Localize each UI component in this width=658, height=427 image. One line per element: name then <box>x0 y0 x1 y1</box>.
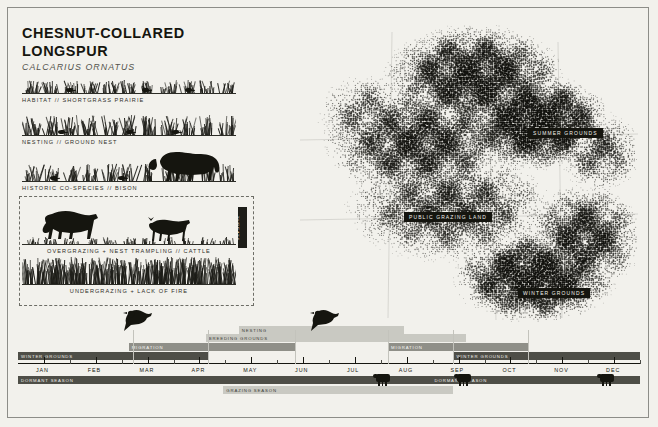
cattle-marker-icon <box>457 374 471 382</box>
month-label: OCT <box>502 367 516 373</box>
month-tick <box>303 357 304 364</box>
strip-caption: NESTING // GROUND NEST <box>22 139 236 145</box>
strip-nesting: NESTING // GROUND NEST <box>22 108 236 145</box>
month-half-tick <box>485 360 486 364</box>
month-label: JUL <box>347 367 359 373</box>
timeline-bar: GRAZING SEASON <box>223 386 453 394</box>
timeline-bar: WINTER GROUNDS <box>18 352 208 360</box>
timeline-bar: MIGRATION <box>388 343 528 351</box>
strip-undergrazing: UNDERGRAZING + LACK OF FIRE <box>22 255 236 294</box>
timeline-guide-line <box>453 330 454 364</box>
timeline-bar: MIGRATION <box>129 343 295 351</box>
timeline-guide-line <box>388 330 389 364</box>
month-label: MAY <box>243 367 257 373</box>
month-half-tick <box>433 360 434 364</box>
range-map: SUMMER GROUNDSPUBLIC GRAZING LANDWINTER … <box>300 22 638 322</box>
month-label: JAN <box>36 367 49 373</box>
month-half-tick <box>329 360 330 364</box>
month-tick <box>459 357 460 364</box>
month-half-tick <box>122 360 123 364</box>
strip-caption: HISTORIC CO-SPECIES // BISON <box>22 185 236 191</box>
month-half-tick <box>174 360 175 364</box>
timeline-guide-line <box>295 330 296 364</box>
map-label-summer-grounds: SUMMER GROUNDS <box>528 128 603 138</box>
month-half-tick <box>536 360 537 364</box>
page-title: CHESNUT-COLLARED LONGSPUR <box>22 24 256 60</box>
month-tick <box>148 357 149 364</box>
timeline-bar-label: BREEDING GROUNDS <box>206 336 268 341</box>
map-label-public-grazing-land: PUBLIC GRAZING LAND <box>404 212 492 222</box>
month-half-tick <box>70 360 71 364</box>
timeline-bar-label: GRAZING SEASON <box>223 388 277 393</box>
strip-cattle: OVERGRAZING + NEST TRAMPLING // CATTLE <box>22 207 236 254</box>
timeline-bar: WINTER GROUNDS <box>453 352 640 360</box>
month-label: JUN <box>295 367 308 373</box>
longspur-marker-icon <box>122 308 152 336</box>
month-tick <box>407 357 408 364</box>
month-tick <box>199 357 200 364</box>
month-half-tick <box>640 360 641 364</box>
month-tick <box>355 357 356 364</box>
strip-caption: UNDERGRAZING + LACK OF FIRE <box>22 288 236 294</box>
month-half-tick <box>277 360 278 364</box>
month-half-tick <box>381 360 382 364</box>
month-tick <box>614 357 615 364</box>
bison-icon <box>22 150 236 182</box>
species-header: CHESNUT-COLLARED LONGSPUR CALCARIUS ORNA… <box>22 24 274 72</box>
infographic-poster: CHESNUT-COLLARED LONGSPUR CALCARIUS ORNA… <box>0 0 658 427</box>
map-label-winter-grounds: WINTER GROUNDS <box>518 288 590 298</box>
cattle-marker-icon <box>376 374 390 382</box>
timeline-bar-label: WINTER GROUNDS <box>18 354 73 359</box>
tallgrass-icon <box>22 255 236 285</box>
timeline-guide-line <box>528 330 529 364</box>
cattle-marker-icon <box>600 374 614 382</box>
month-tick <box>96 357 97 364</box>
timeline-bar: DORMANT SEASON <box>18 376 432 384</box>
timeline-bar-label: MIGRATION <box>388 345 423 350</box>
month-tick <box>562 357 563 364</box>
timeline-guide-line <box>133 330 134 364</box>
month-label: MAR <box>140 367 155 373</box>
bison-silhouette <box>146 150 230 181</box>
phenology-timeline: WINTER GROUNDSMIGRATIONBREEDING GROUNDSN… <box>18 330 640 410</box>
month-tick <box>251 357 252 364</box>
month-label: DEC <box>606 367 620 373</box>
month-tick <box>510 357 511 364</box>
threats-tab: THREATS <box>238 207 247 248</box>
timeline-bar-label: NESTING <box>239 328 267 333</box>
month-label: FEB <box>88 367 101 373</box>
strip-habitat: HABITAT // SHORTGRASS PRAIRIE <box>22 68 236 103</box>
month-half-tick <box>225 360 226 364</box>
timeline-guide-line <box>208 330 209 364</box>
month-tick <box>44 357 45 364</box>
cattle-icon <box>22 207 236 245</box>
month-label: AUG <box>399 367 413 373</box>
strip-bison: HISTORIC CO-SPECIES // BISON <box>22 150 236 191</box>
range-map-halftone <box>300 22 638 322</box>
strip-caption: HABITAT // SHORTGRASS PRAIRIE <box>22 97 236 103</box>
timeline-bar-label: WINTER GROUNDS <box>453 354 508 359</box>
month-label: NOV <box>554 367 568 373</box>
timeline-bar-label: DORMANT SEASON <box>18 378 74 383</box>
strip-caption: OVERGRAZING + NEST TRAMPLING // CATTLE <box>22 248 236 254</box>
ground-nest-icon <box>22 108 236 136</box>
longspur-marker-icon <box>309 308 339 336</box>
month-label: APR <box>191 367 205 373</box>
shortgrass-prairie-icon <box>22 68 236 94</box>
month-half-tick <box>588 360 589 364</box>
month-label: SEP <box>451 367 465 373</box>
